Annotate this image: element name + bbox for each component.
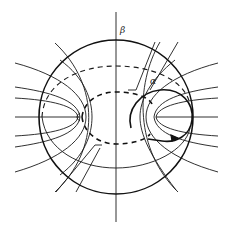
alpha-cycle [130, 90, 192, 142]
alpha-label: α [150, 76, 156, 86]
torus-inner-hole [82, 92, 152, 144]
left-field-curve-3 [60, 60, 92, 175]
torus-sphere-diagram: β α [0, 0, 232, 235]
left-field-curve-4 [15, 63, 86, 172]
beta-label: β [119, 25, 125, 35]
